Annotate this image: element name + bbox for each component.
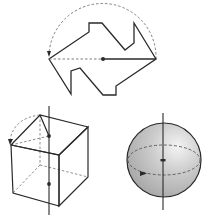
axis-dot-top <box>47 134 51 138</box>
cube-front-face <box>11 145 59 206</box>
rotation-arc-dashed <box>10 115 40 140</box>
sphere-rotation-figure <box>127 113 201 210</box>
hidden-edge <box>13 165 40 193</box>
polygon-rotation-figure <box>47 3 156 95</box>
rotation-center-dot <box>101 57 105 61</box>
sphere-center-mark <box>161 159 166 161</box>
cube-right-face <box>59 127 88 206</box>
axis-dot-bottom <box>47 182 51 186</box>
hidden-diagonal <box>11 136 49 145</box>
rotation-arc-dashed <box>49 3 156 59</box>
top-diagonal <box>40 115 49 136</box>
arrow-head-icon <box>47 51 51 57</box>
hidden-edge <box>40 165 88 177</box>
cube-rotation-figure <box>8 106 88 215</box>
rotation-diagram <box>0 0 207 223</box>
